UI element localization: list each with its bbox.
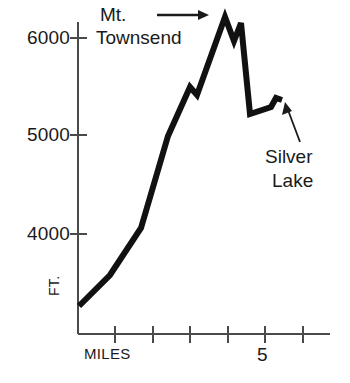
annotation-mt-townsend-line1: Mt. — [100, 4, 126, 26]
elevation-profile-line — [79, 17, 282, 306]
y-axis-label-4000: 4000 — [8, 223, 70, 245]
silver-lake-arrow-icon — [282, 102, 300, 142]
mt-townsend-arrow-icon — [157, 10, 209, 20]
x-axis-label-5: 5 — [257, 344, 268, 366]
y-axis-label-5000: 5000 — [8, 124, 70, 146]
annotation-silver-lake-line2: Lake — [272, 170, 313, 192]
annotation-silver-lake-line1: Silver — [265, 146, 313, 168]
y-axis-title: FT. — [46, 276, 62, 296]
annotation-mt-townsend-line2: Townsend — [96, 27, 182, 49]
y-axis-label-6000: 6000 — [8, 27, 70, 49]
x-axis-title: MILES — [84, 345, 131, 362]
elevation-profile-chart: 6000 5000 4000 5 MILES FT. Mt. Townsend … — [0, 0, 350, 383]
